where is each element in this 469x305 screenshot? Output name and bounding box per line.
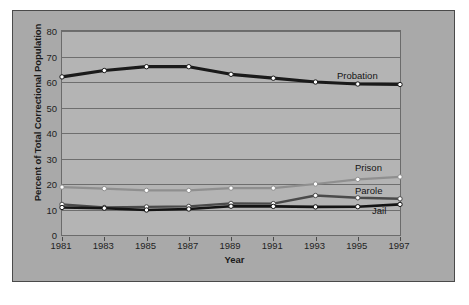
chart-figure: Percent of Total Correctional Population… bbox=[12, 10, 455, 282]
data-point-prison bbox=[271, 186, 275, 190]
data-point-jail bbox=[144, 208, 148, 212]
data-point-probation bbox=[60, 75, 64, 79]
data-point-jail bbox=[398, 202, 402, 206]
y-tick-label: 50 bbox=[31, 102, 57, 113]
x-tick-label: 1989 bbox=[210, 240, 250, 251]
data-point-prison bbox=[356, 177, 360, 181]
data-point-prison bbox=[60, 185, 64, 189]
data-point-prison bbox=[187, 188, 191, 192]
data-point-prison bbox=[398, 175, 402, 179]
y-tick-label: 20 bbox=[31, 179, 57, 190]
x-tick-label: 1987 bbox=[168, 240, 208, 251]
data-point-jail bbox=[313, 205, 317, 209]
data-point-prison bbox=[313, 182, 317, 186]
data-point-probation bbox=[398, 82, 402, 86]
x-tick-label: 1983 bbox=[83, 240, 123, 251]
x-axis-tick-labels: 198119831985198719891991199319951997 bbox=[61, 240, 401, 254]
x-axis-title: Year bbox=[13, 254, 456, 265]
data-point-probation bbox=[144, 65, 148, 69]
data-point-probation bbox=[102, 68, 106, 72]
x-tick-label: 1997 bbox=[379, 240, 419, 251]
y-tick-label: 10 bbox=[31, 204, 57, 215]
data-point-jail bbox=[60, 205, 64, 209]
y-axis-tick-labels: 01020304050607080 bbox=[27, 30, 57, 236]
plot-area bbox=[61, 30, 401, 236]
data-point-probation bbox=[271, 76, 275, 80]
y-tick-label: 0 bbox=[31, 230, 57, 241]
x-tick-label: 1995 bbox=[337, 240, 377, 251]
data-point-probation bbox=[229, 72, 233, 76]
chart-lines bbox=[62, 31, 400, 235]
y-tick-label: 80 bbox=[31, 26, 57, 37]
data-point-parole bbox=[313, 193, 317, 197]
data-point-jail bbox=[102, 206, 106, 210]
series-label-prison: Prison bbox=[355, 162, 382, 173]
x-tick-label: 1985 bbox=[126, 240, 166, 251]
data-point-prison bbox=[229, 186, 233, 190]
data-point-probation bbox=[313, 80, 317, 84]
data-point-jail bbox=[229, 204, 233, 208]
data-point-parole bbox=[398, 197, 402, 201]
data-point-jail bbox=[187, 207, 191, 211]
data-point-prison bbox=[102, 186, 106, 190]
data-point-jail bbox=[356, 205, 360, 209]
series-label-parole: Parole bbox=[355, 185, 382, 196]
data-point-parole bbox=[356, 196, 360, 200]
data-point-prison bbox=[144, 188, 148, 192]
data-point-probation bbox=[187, 65, 191, 69]
y-tick-label: 40 bbox=[31, 128, 57, 139]
x-tick-label: 1991 bbox=[252, 240, 292, 251]
data-point-probation bbox=[356, 82, 360, 86]
data-point-jail bbox=[271, 204, 275, 208]
x-tick-label: 1993 bbox=[295, 240, 335, 251]
y-tick-label: 70 bbox=[31, 51, 57, 62]
y-tick-label: 30 bbox=[31, 153, 57, 164]
series-label-probation: Probation bbox=[337, 70, 378, 81]
y-tick-label: 60 bbox=[31, 77, 57, 88]
x-tick-label: 1981 bbox=[41, 240, 81, 251]
series-label-jail: Jail bbox=[372, 205, 386, 216]
